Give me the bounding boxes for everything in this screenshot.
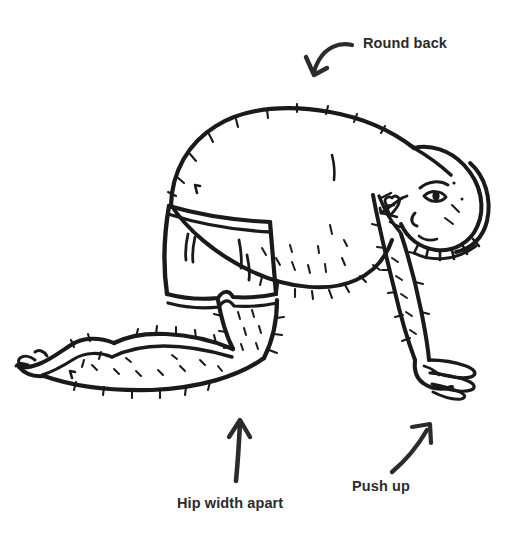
shorts-hem-top [167,292,276,299]
nose [412,213,417,226]
figure-body [16,104,489,399]
face-texture [445,181,464,224]
label-push-up: Push up [352,479,410,494]
torso-mark [332,155,334,180]
shorts-folds [186,234,250,280]
exercise-illustration [0,0,521,542]
mouth [419,236,437,240]
round-back-arrow-icon [306,44,352,75]
label-round-back: Round back [363,36,447,51]
hip-width-arrow-icon [229,420,250,481]
pupil [432,192,439,200]
thigh-front-edge [218,300,233,349]
thigh-back-edge [264,300,277,358]
arm-hair-ticks [372,224,429,341]
chest-underline [171,205,392,287]
label-hip-width-apart: Hip width apart [177,496,283,511]
back-outline [171,108,414,205]
shin-bottom-edge [44,358,264,390]
shorts-hem-bottom [168,301,277,308]
thigh-hair-flecks [238,310,261,350]
eyebrow [420,182,448,188]
push-up-arrow-icon [392,424,431,472]
shorts-left-edge [165,206,169,294]
shin-dot [70,371,75,378]
arm-front-edge [373,195,415,360]
shorts-right-edge [270,222,276,294]
hip-tick [195,185,200,193]
